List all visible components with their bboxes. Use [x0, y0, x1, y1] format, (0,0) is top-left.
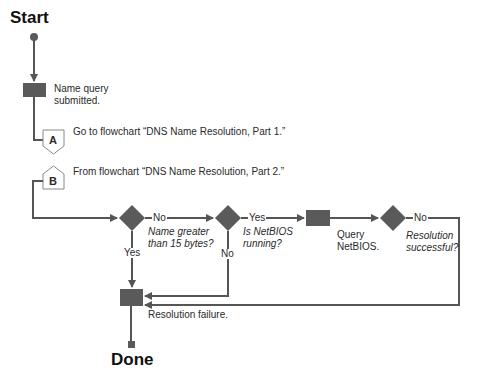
done-marker: [128, 341, 135, 348]
edge-label-d2-yes: Yes: [248, 213, 266, 223]
query-label: Query NetBIOS.: [337, 229, 379, 253]
submit-label-line1: Name query: [54, 83, 108, 95]
connector-b-letter: B: [49, 175, 57, 187]
decision-diamond-3: [380, 205, 406, 231]
d3-question-line2: successful?: [406, 242, 458, 254]
decision-diamond-2: [215, 205, 241, 231]
d1-question-line1: Name greater: [148, 226, 214, 238]
query-label-line2: NetBIOS.: [337, 241, 379, 253]
d1-question: Name greater than 15 bytes?: [148, 226, 214, 250]
submit-label: Name query submitted.: [54, 83, 108, 107]
d2-question-line1: Is NetBIOS: [243, 226, 293, 238]
start-title: Start: [10, 8, 49, 28]
d2-question: Is NetBIOS running?: [243, 226, 293, 250]
edge-label-d2-no: No: [220, 249, 235, 259]
edge-label-d1-yes: Yes: [123, 248, 141, 258]
d3-question: Resolution successful?: [406, 230, 458, 254]
d3-question-line1: Resolution: [406, 230, 458, 242]
edge-label-d3-no: No: [413, 213, 428, 223]
process-box-query: [306, 210, 330, 226]
done-title: Done: [111, 350, 154, 370]
connector-b-caption: From flowchart “DNS Name Resolution, Par…: [73, 166, 284, 178]
query-label-line1: Query: [337, 229, 379, 241]
d1-question-line2: than 15 bytes?: [148, 238, 214, 250]
start-dot: [30, 33, 38, 41]
process-box-submit: [23, 83, 46, 97]
flowchart-canvas: [0, 0, 485, 387]
fail-label: Resolution failure.: [148, 309, 228, 321]
process-box-fail: [120, 289, 143, 306]
connector-a-letter: A: [49, 134, 57, 146]
edge-submit-a: [34, 97, 43, 140]
submit-label-line2: submitted.: [54, 95, 108, 107]
edge-label-d1-no: No: [152, 213, 167, 223]
d2-question-line2: running?: [243, 238, 293, 250]
connector-a-caption: Go to flowchart “DNS Name Resolution, Pa…: [73, 126, 285, 138]
decision-diamond-1: [119, 205, 145, 231]
